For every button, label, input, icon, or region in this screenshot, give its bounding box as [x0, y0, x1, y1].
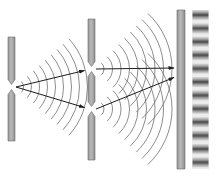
barrier-segment: [88, 72, 95, 107]
single-slit-barrier: [8, 37, 15, 141]
fringe-dark-band: [193, 23, 209, 34]
barrier-segment: [8, 37, 15, 85]
double-slit-diagram: [0, 0, 218, 180]
wavefront-arc: [33, 71, 39, 103]
ray-upper-slit-to-screen: [96, 68, 174, 69]
fringe-dark-band: [193, 50, 209, 61]
interference-pattern-layer: [192, 10, 209, 170]
wavefront-arc: [51, 55, 63, 119]
detection-screen: [177, 10, 185, 169]
wavefront-arc: [101, 103, 104, 115]
fringe-dark-band: [193, 144, 209, 155]
interference-fringe-pattern: [192, 10, 209, 170]
fringe-dark-band: [193, 36, 209, 47]
fringe-dark-band: [193, 63, 209, 74]
barriers-layer: [8, 10, 185, 169]
double-slit-barrier: [88, 19, 95, 160]
fringe-dark-band: [193, 130, 209, 141]
ray-source-to-lower-slit: [16, 87, 85, 108]
wavefront-arc: [130, 72, 146, 146]
barrier-segment: [8, 90, 15, 142]
wavefront-arc: [45, 60, 55, 114]
wavefront-arc: [39, 66, 47, 109]
fringe-dark-band: [193, 90, 209, 101]
wavefronts-from-source-slit: [21, 39, 87, 135]
wavefront-arc: [21, 82, 23, 93]
fringe-dark-band: [193, 10, 209, 21]
wavefront-arc: [125, 78, 138, 139]
fringe-dark-band: [193, 157, 209, 168]
ray-lower-slit-to-screen: [96, 78, 174, 110]
fringe-dark-band: [193, 77, 209, 88]
ray-source-to-upper-slit: [16, 71, 85, 88]
fringe-dark-band: [193, 103, 209, 114]
barrier-segment: [177, 10, 185, 169]
fringe-dark-band: [193, 117, 209, 128]
wavefronts-from-lower-slit: [101, 53, 172, 164]
barrier-segment: [88, 112, 95, 161]
wavefront-arc: [57, 50, 71, 125]
wavefront-arc: [27, 76, 31, 97]
barrier-segment: [88, 19, 95, 67]
wavefront-arc: [113, 91, 121, 128]
wavefront-arc: [107, 97, 112, 121]
diagram-canvas: [0, 0, 218, 180]
wavefront-arcs-layer: [21, 13, 172, 164]
